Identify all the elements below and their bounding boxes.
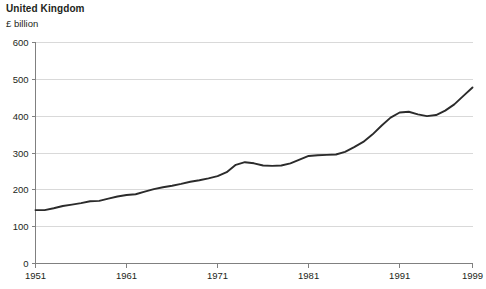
x-tick-label: 1991 bbox=[389, 270, 410, 281]
y-tick-label: 400 bbox=[13, 111, 29, 122]
x-axis-ticks: 195119611971198119911999 bbox=[25, 264, 483, 281]
line-chart-plot: 0100200300400500600 19511961197119811991… bbox=[0, 0, 486, 289]
y-tick-label: 300 bbox=[13, 148, 29, 159]
x-tick-label: 1951 bbox=[25, 270, 46, 281]
y-tick-label: 100 bbox=[13, 221, 29, 232]
chart-container: United Kingdom £ billion 010020030040050… bbox=[0, 0, 486, 289]
series-line-united-kingdom bbox=[36, 87, 473, 210]
gridlines bbox=[36, 43, 473, 227]
x-tick-label: 1981 bbox=[298, 270, 319, 281]
x-tick-label: 1999 bbox=[462, 270, 483, 281]
y-tick-label: 600 bbox=[13, 37, 29, 48]
y-tick-label: 500 bbox=[13, 74, 29, 85]
x-tick-label: 1961 bbox=[116, 270, 137, 281]
y-tick-label: 200 bbox=[13, 184, 29, 195]
y-axis-ticks: 0100200300400500600 bbox=[13, 37, 36, 269]
x-tick-label: 1971 bbox=[207, 270, 228, 281]
y-tick-label: 0 bbox=[23, 258, 28, 269]
